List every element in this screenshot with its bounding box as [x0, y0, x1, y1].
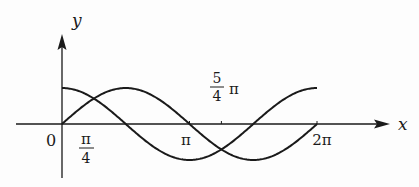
- graph-svg: y x 0 π 4 π 5 4 π 2π: [0, 0, 419, 187]
- x-axis-label: x: [398, 114, 408, 134]
- graph-canvas: y x 0 π 4 π 5 4 π 2π: [0, 0, 419, 187]
- origin-label: 0: [46, 131, 56, 150]
- tick-label-pi4-denominator: 4: [82, 150, 91, 166]
- tick-label-pi: π: [181, 131, 191, 149]
- tick-label-pi4-numerator: π: [81, 130, 91, 148]
- tick-label-5pi4-suffix: π: [229, 80, 239, 98]
- tick-label-5pi4-numerator: 5: [213, 70, 222, 86]
- y-axis-label: y: [71, 10, 82, 30]
- tick-label-2pi: 2π: [312, 131, 332, 149]
- tick-label-5pi4-denominator: 4: [213, 88, 222, 104]
